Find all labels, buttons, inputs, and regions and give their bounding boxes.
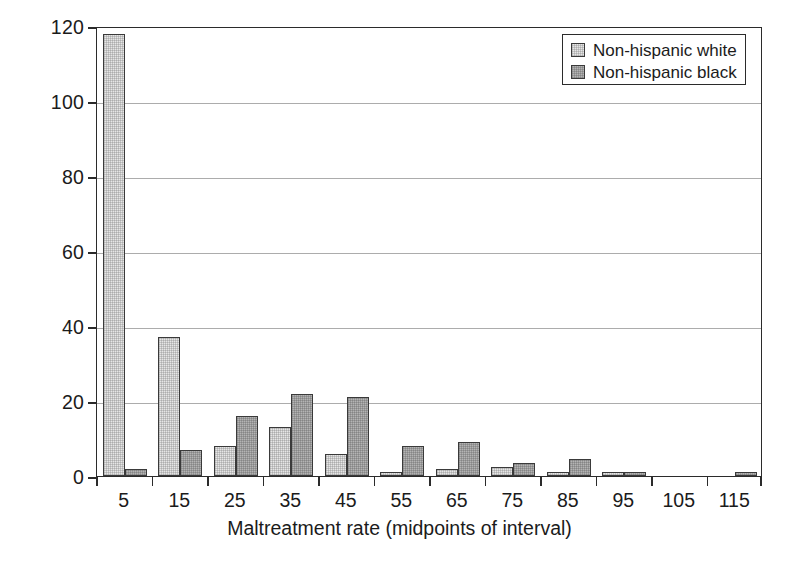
chart-legend: Non-hispanic whiteNon-hispanic black xyxy=(562,34,746,85)
x-axis-tick-label: 95 xyxy=(612,489,634,512)
x-axis-tick-label: 85 xyxy=(557,489,579,512)
y-axis-tick xyxy=(88,177,97,179)
x-axis-tick-label: 5 xyxy=(118,489,129,512)
y-axis-tick xyxy=(88,402,97,404)
plot-area xyxy=(96,27,762,477)
bar-black-35 xyxy=(291,394,313,477)
x-axis-tick-label: 45 xyxy=(335,489,357,512)
bar-white-15 xyxy=(158,337,180,476)
legend-label: Non-hispanic white xyxy=(593,42,737,59)
bar-white-55 xyxy=(380,472,402,476)
x-axis-tick xyxy=(374,477,376,486)
bar-black-95 xyxy=(624,472,646,476)
bar-white-65 xyxy=(436,469,458,477)
x-axis-tick xyxy=(651,477,653,486)
legend-item-black: Non-hispanic black xyxy=(571,61,745,83)
bar-white-75 xyxy=(491,467,513,476)
bar-white-45 xyxy=(325,454,347,477)
x-axis-tick-label: 75 xyxy=(501,489,523,512)
bar-black-115 xyxy=(735,472,757,476)
x-axis-tick xyxy=(207,477,209,486)
x-axis-tick-label: 15 xyxy=(168,489,190,512)
y-axis-tick xyxy=(88,102,97,104)
y-axis-tick-labels: 020406080100120 xyxy=(0,0,92,561)
legend-swatch-white xyxy=(571,43,585,57)
bar-black-85 xyxy=(569,459,591,476)
x-axis-tick-label: 115 xyxy=(719,489,750,512)
bar-white-85 xyxy=(547,472,569,476)
y-axis-tick-label: 0 xyxy=(73,466,84,489)
x-axis-tick-label: 35 xyxy=(279,489,301,512)
x-axis-tick xyxy=(263,477,265,486)
bar-white-25 xyxy=(214,446,236,476)
histogram-figure: 020406080100120 Number of tracts 5152535… xyxy=(0,0,799,561)
bar-black-45 xyxy=(347,397,369,476)
x-axis-tick xyxy=(596,477,598,486)
bar-white-35 xyxy=(269,427,291,476)
x-axis-tick xyxy=(485,477,487,486)
y-axis-tick-label: 120 xyxy=(51,16,84,39)
bar-black-25 xyxy=(236,416,258,476)
bar-white-95 xyxy=(602,472,624,476)
y-axis-tick xyxy=(88,252,97,254)
x-axis-tick-label: 55 xyxy=(390,489,412,512)
y-axis-tick xyxy=(88,27,97,29)
bar-black-75 xyxy=(513,463,535,476)
x-axis-tick xyxy=(429,477,431,486)
bar-black-15 xyxy=(180,450,202,476)
x-axis-ticks xyxy=(96,477,762,489)
y-axis-tick-label: 100 xyxy=(51,91,84,114)
y-axis-tick-label: 60 xyxy=(62,241,84,264)
legend-label: Non-hispanic black xyxy=(593,64,737,81)
bar-black-55 xyxy=(402,446,424,476)
x-axis-tick-label: 105 xyxy=(662,489,695,512)
y-axis-tick xyxy=(88,327,97,329)
x-axis-tick xyxy=(318,477,320,486)
y-axis-tick-label: 40 xyxy=(62,316,84,339)
x-axis-tick xyxy=(96,477,98,486)
legend-item-white: Non-hispanic white xyxy=(571,39,745,61)
x-axis-title: Maltreatment rate (midpoints of interval… xyxy=(0,517,799,540)
x-axis-tick-labels: 5152535455565758595105115 xyxy=(0,489,799,517)
x-axis-tick xyxy=(707,477,709,486)
legend-swatch-black xyxy=(571,65,585,79)
bar-black-65 xyxy=(458,442,480,476)
x-axis-tick-label: 25 xyxy=(224,489,246,512)
x-axis-tick-label: 65 xyxy=(446,489,468,512)
x-axis-tick xyxy=(152,477,154,486)
x-axis-tick xyxy=(540,477,542,486)
bar-white-5 xyxy=(103,34,125,477)
x-axis-tick xyxy=(760,477,762,486)
y-axis-tick-label: 20 xyxy=(62,391,84,414)
y-axis-tick-label: 80 xyxy=(62,166,84,189)
bar-black-5 xyxy=(125,469,147,477)
bar-series-container xyxy=(97,28,761,476)
